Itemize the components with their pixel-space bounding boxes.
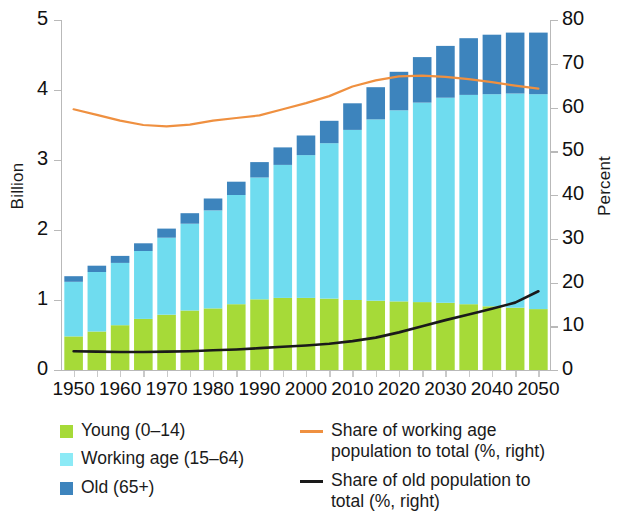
- bar-segment: [529, 309, 548, 370]
- y-tick-left: [54, 300, 61, 301]
- y-tick-right: [551, 108, 558, 109]
- bar-segment: [529, 94, 548, 309]
- y-tick-label-left: 5: [0, 7, 48, 30]
- bar-segment: [157, 229, 176, 238]
- y-tick-right: [551, 370, 558, 371]
- bar-segment: [227, 195, 246, 304]
- bar-segment: [111, 325, 130, 370]
- y-tick-label-right: 20: [562, 270, 608, 293]
- bar-segment: [297, 298, 316, 370]
- legend-label: Young (0–14): [81, 420, 185, 441]
- legend-column-bars: Young (0–14)Working age (15–64)Old (65+): [60, 420, 300, 505]
- y-tick-right: [551, 151, 558, 152]
- bar-segment: [390, 301, 409, 370]
- x-tick: [445, 371, 446, 377]
- bar-segment: [273, 165, 292, 298]
- legend-item[interactable]: Young (0–14): [60, 420, 300, 441]
- bar-segment: [320, 143, 339, 298]
- bar-segment: [320, 299, 339, 370]
- y-tick-label-right: 60: [562, 95, 608, 118]
- bar-segment: [273, 298, 292, 370]
- bar-segment: [506, 94, 525, 308]
- x-tick: [143, 371, 144, 377]
- bar-segment: [273, 147, 292, 165]
- bar-segment: [343, 130, 362, 300]
- y-tick-right: [551, 239, 558, 240]
- y-tick-label-left: 1: [0, 287, 48, 310]
- bar-segment: [250, 162, 269, 177]
- x-tick: [74, 371, 75, 377]
- x-tick: [538, 371, 539, 377]
- y-tick-label-right: 70: [562, 51, 608, 74]
- x-tick: [492, 371, 493, 377]
- bar-segment: [157, 238, 176, 315]
- bar-segment: [436, 46, 455, 98]
- bar-segment: [204, 308, 223, 370]
- legend-item[interactable]: Working age (15–64): [60, 448, 300, 469]
- legend-swatch-icon: [60, 482, 73, 495]
- y-tick-right: [551, 326, 558, 327]
- x-tick-label: 2050: [508, 378, 568, 400]
- bar-segment: [64, 276, 83, 282]
- legend-item[interactable]: Share of working agepopulation to total …: [300, 420, 610, 463]
- legend-swatch-icon: [60, 425, 73, 438]
- bar-segment: [157, 315, 176, 370]
- y-tick-label-left: 3: [0, 147, 48, 170]
- bar-segment: [366, 119, 385, 300]
- y-tick-label-left: 2: [0, 217, 48, 240]
- bar-segment: [134, 251, 153, 319]
- bar-segment: [134, 243, 153, 251]
- x-tick: [329, 371, 330, 377]
- y-tick-label-right: 0: [562, 357, 608, 380]
- legend-label: Working age (15–64): [81, 448, 244, 469]
- legend-label: Share of old population tototal (%, righ…: [331, 470, 530, 513]
- bar-segment: [343, 300, 362, 370]
- bar-segment: [413, 103, 432, 303]
- x-tick: [260, 371, 261, 377]
- y-tick-label-right: 80: [562, 7, 608, 30]
- y-tick-left: [54, 370, 61, 371]
- y-tick-label-right: 30: [562, 226, 608, 249]
- bar-segment: [88, 266, 107, 272]
- legend-line-icon: [300, 430, 323, 433]
- y-tick-label-right: 40: [562, 182, 608, 205]
- bar-segment: [111, 256, 130, 263]
- bar-segment: [483, 306, 502, 370]
- bar-segment: [483, 35, 502, 94]
- bar-segment: [366, 87, 385, 119]
- y-tick-left: [54, 160, 61, 161]
- bar-segment: [181, 311, 200, 371]
- x-tick: [399, 371, 400, 377]
- y-tick-label-left: 4: [0, 77, 48, 100]
- legend-item[interactable]: Old (65+): [60, 477, 300, 498]
- bar-segment: [529, 33, 548, 95]
- y-tick-label-right: 10: [562, 313, 608, 336]
- x-tick: [213, 371, 214, 377]
- bar-segment: [181, 213, 200, 224]
- bar-segment: [227, 182, 246, 195]
- x-tick: [190, 371, 191, 377]
- x-tick: [120, 371, 121, 377]
- bar-segment: [506, 308, 525, 370]
- y-tick-label-left: 0: [0, 357, 48, 380]
- bar-segment: [413, 302, 432, 370]
- y-tick-left: [54, 230, 61, 231]
- y-tick-right: [551, 195, 558, 196]
- plot-area: [62, 20, 550, 370]
- bar-segment: [436, 98, 455, 303]
- bar-segment: [227, 304, 246, 370]
- y-tick-right: [551, 20, 558, 21]
- bar-segment: [111, 263, 130, 325]
- bar-segment: [297, 136, 316, 156]
- bar-segment: [413, 57, 432, 103]
- legend-label: Share of working agepopulation to total …: [331, 420, 545, 463]
- bar-segment: [250, 178, 269, 300]
- legend-item[interactable]: Share of old population tototal (%, righ…: [300, 470, 610, 513]
- chart-legend: Young (0–14)Working age (15–64)Old (65+)…: [0, 420, 617, 525]
- bar-segment: [459, 38, 478, 95]
- x-tick: [283, 371, 284, 377]
- bar-segment: [436, 303, 455, 370]
- bar-segment: [320, 121, 339, 143]
- x-tick: [97, 371, 98, 377]
- bar-segment: [204, 199, 223, 211]
